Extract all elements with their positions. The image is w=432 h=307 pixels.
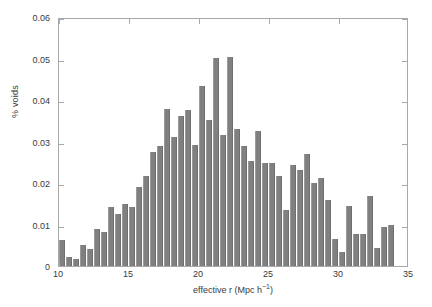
x-tick-label: 25 [263, 269, 273, 280]
histogram-bar [234, 129, 240, 266]
histogram-bar [276, 176, 282, 266]
x-tick-mark [199, 261, 200, 266]
x-axis-title-tail: ) [270, 285, 273, 295]
histogram-bar [115, 214, 121, 266]
x-tick-mark [59, 261, 60, 266]
y-tick-mark-right [402, 19, 407, 20]
y-tick-mark-right [402, 102, 407, 103]
y-tick-mark-right [402, 227, 407, 228]
histogram-bar [381, 227, 387, 266]
x-axis-title: effective r (Mpc h−1) [58, 285, 408, 295]
x-tick-mark-top [339, 19, 340, 24]
histogram-bar [213, 58, 219, 266]
histogram-bar [283, 210, 289, 266]
x-tick-mark-top [129, 19, 130, 24]
histogram-bar [346, 206, 352, 266]
histogram-bar [178, 116, 184, 266]
histogram-bar [248, 161, 254, 266]
x-tick-mark [269, 261, 270, 266]
histogram-bar [157, 146, 163, 266]
histogram-bar [66, 257, 72, 266]
y-tick-label-group: 00.010.020.030.040.050.06 [0, 18, 54, 267]
x-tick-mark-top [269, 19, 270, 24]
y-tick-label: 0.02 [32, 179, 50, 189]
histogram-bar [311, 183, 317, 266]
x-tick-mark [339, 261, 340, 266]
y-tick-label: 0.01 [32, 221, 50, 231]
histogram-bar [101, 232, 107, 266]
y-tick-label: 0 [45, 262, 50, 272]
histogram-figure: % voids 00.010.020.030.040.050.06 101520… [0, 0, 432, 307]
histogram-bar [374, 248, 380, 266]
histogram-bar [94, 229, 100, 266]
x-tick-label-group: 101520253035 [58, 269, 408, 283]
plot-area [58, 18, 408, 267]
x-tick-label: 35 [403, 269, 413, 280]
y-tick-label: 0.05 [32, 55, 50, 65]
histogram-bar [318, 178, 324, 266]
y-tick-label: 0.04 [32, 96, 50, 106]
histogram-bar [388, 225, 394, 266]
histogram-bar [136, 187, 142, 266]
histogram-bar [192, 145, 198, 266]
x-tick-label: 30 [333, 269, 343, 280]
histogram-bar [325, 200, 331, 266]
histogram-bar [353, 234, 359, 266]
histogram-bar [367, 196, 373, 266]
x-tick-label: 20 [193, 269, 203, 280]
x-tick-label: 15 [123, 269, 133, 280]
y-tick-mark [59, 61, 64, 62]
histogram-bar [164, 109, 170, 266]
y-tick-mark-right [402, 185, 407, 186]
histogram-bar [150, 152, 156, 266]
histogram-bar [108, 207, 114, 266]
y-tick-mark-right [402, 61, 407, 62]
histogram-bar [143, 176, 149, 266]
histogram-bar [227, 57, 233, 266]
histogram-bar [185, 110, 191, 266]
x-tick-mark [129, 261, 130, 266]
histogram-bar [297, 170, 303, 266]
y-tick-mark [59, 144, 64, 145]
histogram-bar [73, 259, 79, 266]
histogram-bar [87, 249, 93, 266]
histogram-bar [199, 86, 205, 266]
y-tick-mark-right [402, 144, 407, 145]
histogram-bar [269, 163, 275, 266]
y-tick-label: 0.06 [32, 13, 50, 23]
histogram-bar [122, 204, 128, 266]
histogram-bar [206, 120, 212, 267]
histogram-bar [220, 135, 226, 266]
y-tick-mark [59, 19, 64, 20]
y-tick-mark [59, 185, 64, 186]
histogram-bar [129, 207, 135, 266]
x-axis-title-main: effective r (Mpc h [193, 285, 262, 295]
histogram-bar [304, 154, 310, 266]
histogram-bar [262, 163, 268, 266]
y-tick-mark [59, 102, 64, 103]
x-tick-label: 10 [53, 269, 63, 280]
histogram-bar [171, 137, 177, 266]
y-tick-mark [59, 227, 64, 228]
x-tick-mark-top [199, 19, 200, 24]
histogram-bar [290, 165, 296, 266]
histogram-bar [80, 245, 86, 266]
histogram-bar [360, 234, 366, 266]
bar-series [59, 19, 407, 266]
histogram-bar [332, 239, 338, 266]
histogram-bar [255, 131, 261, 266]
y-tick-label: 0.03 [32, 138, 50, 148]
histogram-bar [241, 146, 247, 266]
x-axis-title-exponent: −1 [262, 283, 270, 290]
